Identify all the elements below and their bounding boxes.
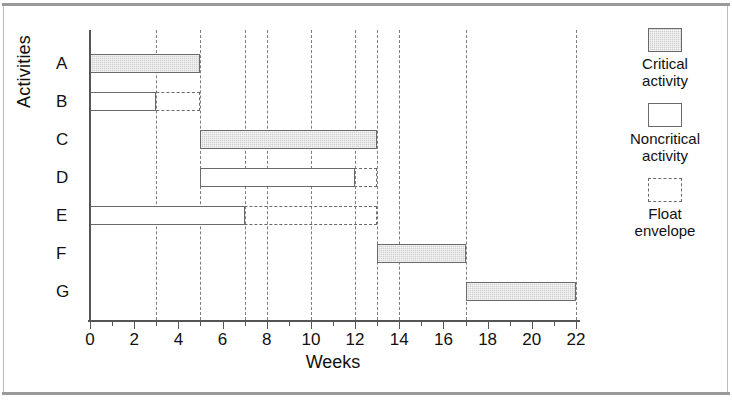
x-axis-line (88, 320, 580, 322)
gridline-week-17 (466, 30, 467, 320)
bar-D (200, 168, 355, 187)
x-tick-label-2: 2 (129, 330, 138, 350)
tick-minor-13 (377, 320, 378, 326)
y-axis-title: Activities (14, 35, 35, 108)
gridline-week-22 (576, 30, 577, 320)
y-tick-label-B: B (56, 93, 67, 111)
x-tick-label-6: 6 (218, 330, 227, 350)
bar-G (466, 282, 576, 301)
tick-major-10 (311, 320, 312, 329)
tick-major-6 (223, 320, 224, 329)
bar-A (90, 54, 200, 73)
legend-swatch-critical-icon (648, 28, 682, 52)
legend-item-critical: Criticalactivity (610, 28, 720, 89)
tick-minor-19 (510, 320, 511, 326)
legend-label-critical-line2: activity (610, 72, 720, 89)
x-tick-label-4: 4 (174, 330, 183, 350)
legend-label-critical-line1: Critical (610, 55, 720, 72)
y-tick-label-A: A (56, 55, 67, 73)
y-tick-label-E: E (56, 207, 67, 225)
tick-minor-21 (554, 320, 555, 326)
tick-major-4 (178, 320, 179, 329)
gridline-week-3 (156, 30, 157, 320)
tick-major-14 (399, 320, 400, 329)
legend-item-float: Floatenvelope (610, 178, 720, 239)
legend-swatch-noncritical-icon (648, 103, 682, 127)
bar-C (200, 130, 377, 149)
gridline-week-14 (399, 30, 400, 320)
legend-swatch-float-icon (648, 178, 682, 202)
y-tick-label-D: D (56, 169, 68, 187)
tick-major-0 (90, 320, 91, 329)
tick-major-2 (134, 320, 135, 329)
tick-minor-3 (156, 320, 157, 326)
legend-label-float-line2: envelope (610, 222, 720, 239)
x-tick-label-12: 12 (346, 330, 365, 350)
gridline-week-13 (377, 30, 378, 320)
tick-major-12 (355, 320, 356, 329)
bar-F (377, 244, 465, 263)
x-tick-label-0: 0 (85, 330, 94, 350)
x-tick-label-20: 20 (522, 330, 541, 350)
legend-item-noncritical: Noncriticalactivity (610, 103, 720, 164)
tick-minor-17 (466, 320, 467, 326)
tick-minor-11 (333, 320, 334, 326)
tick-minor-5 (200, 320, 201, 326)
bar-B (90, 92, 156, 111)
gantt-chart-figure: Activities Weeks 0246810121416182022 ABC… (0, 0, 732, 413)
plot-area: 0246810121416182022 ABCDEFG (90, 30, 576, 316)
tick-major-20 (532, 320, 533, 329)
tick-major-18 (488, 320, 489, 329)
figure-bottom-rule (2, 392, 730, 395)
x-axis-title: Weeks (90, 352, 576, 373)
y-tick-label-G: G (56, 283, 69, 301)
y-tick-label-F: F (56, 245, 66, 263)
tick-major-16 (443, 320, 444, 329)
tick-minor-15 (421, 320, 422, 326)
tick-major-22 (576, 320, 577, 329)
legend: CriticalactivityNoncriticalactivityFloat… (610, 28, 720, 253)
legend-label-noncritical-line1: Noncritical (610, 130, 720, 147)
tick-minor-9 (289, 320, 290, 326)
y-axis-line (89, 30, 91, 320)
tick-minor-1 (112, 320, 113, 326)
x-tick-label-14: 14 (390, 330, 409, 350)
legend-label-float-line1: Float (610, 205, 720, 222)
x-tick-label-8: 8 (262, 330, 271, 350)
x-tick-label-22: 22 (567, 330, 586, 350)
tick-major-8 (267, 320, 268, 329)
legend-label-noncritical-line2: activity (610, 147, 720, 164)
x-tick-label-18: 18 (478, 330, 497, 350)
x-tick-label-10: 10 (301, 330, 320, 350)
tick-minor-7 (245, 320, 246, 326)
bar-E (90, 206, 245, 225)
y-tick-label-C: C (56, 131, 68, 149)
x-tick-label-16: 16 (434, 330, 453, 350)
